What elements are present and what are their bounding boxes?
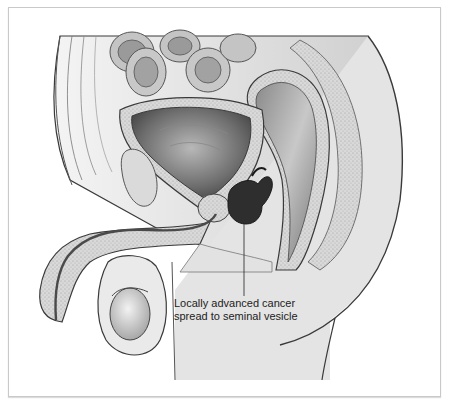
annotation-label: Locally advanced cancer spread to semina… xyxy=(174,297,298,323)
annotation-line-2: spread to seminal vesicle xyxy=(174,310,298,323)
testis xyxy=(110,288,150,340)
anatomy-illustration xyxy=(0,0,449,409)
annotation-line-1: Locally advanced cancer xyxy=(174,297,298,310)
